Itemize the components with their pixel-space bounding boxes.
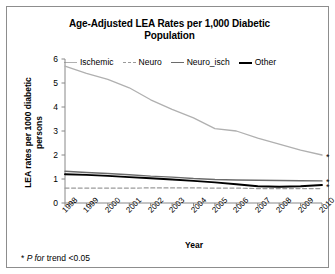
footnote-italic: P for [27,253,45,263]
footnote-rest: trend <0.05 [47,253,90,263]
figure-frame: Age-Adjusted LEA Rates per 1,000 Diabeti… [6,6,329,268]
chart-title-line2: Population [144,30,195,41]
y-axis-ticks [62,59,66,203]
y-tick-label: 1 [44,175,58,183]
footnote-marker: * [21,253,24,263]
series-line-neuro [65,188,322,189]
y-axis-label-line1: LEA rates per 1000 diabetic [23,77,33,188]
y-axis-label: LEA rates per 1000 diabetic persons [23,58,44,208]
chart-title-line1: Age-Adjusted LEA Rates per 1,000 Diabeti… [69,18,270,29]
chart-title: Age-Adjusted LEA Rates per 1,000 Diabeti… [37,18,302,42]
y-tick-label: 3 [44,127,58,135]
plot-svg [65,59,322,203]
plot-area: ***0123456199819992000200120022003200420… [65,59,322,203]
y-tick-label: 6 [44,55,58,63]
x-tick-label: 1998 [61,196,79,214]
significance-asterisk-other: * [326,184,330,190]
y-tick-label: 0 [44,199,58,207]
y-axis-label-line2: persons [33,116,43,149]
y-tick-label: 5 [44,79,58,87]
figure-container: Age-Adjusted LEA Rates per 1,000 Diabeti… [0,0,335,274]
x-axis-label: Year [65,240,323,250]
y-tick-label: 2 [44,151,58,159]
footnote: * P for trend <0.05 [21,253,90,263]
y-tick-label: 4 [44,103,58,111]
significance-asterisk-ischemic: * [326,154,330,160]
series-line-ischemic [65,66,322,155]
